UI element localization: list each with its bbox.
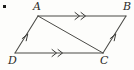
diagonal-ac [38, 16, 103, 53]
vertex-label-a: A [33, 1, 41, 12]
vertex-label-c: C [100, 55, 108, 66]
geometry-figure: A B C D [0, 0, 134, 70]
parallelogram-drawing [0, 0, 134, 70]
vertex-label-d: D [8, 55, 17, 66]
vertex-label-b: B [123, 1, 131, 12]
